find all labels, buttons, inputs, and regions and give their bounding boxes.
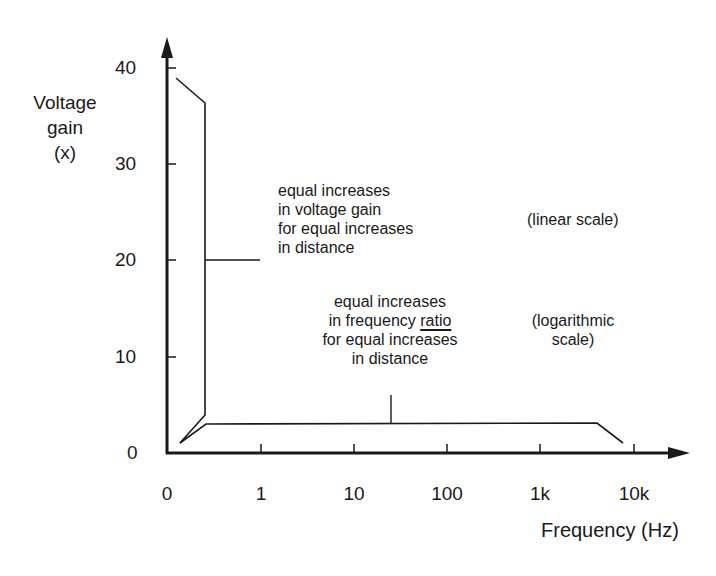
x-tick-label: 1k [515,483,565,505]
y-tick-label: 10 [115,346,136,368]
linear-annotation-line: equal increases [278,181,413,200]
log-scale-note: (logarithmic scale) [518,311,628,349]
x-axis-label: Frequency (Hz) [541,519,679,541]
log-annotation-line: in frequency ratio [300,311,480,330]
linear-scale-note: (linear scale) [527,210,619,229]
y-tick-label: 0 [127,442,138,464]
y-axis-label-line: Voltage [20,90,110,115]
log-scale-note-line: (logarithmic [518,311,628,330]
log-annotation-line: for equal increases [300,330,480,349]
y-axis-label-line: (x) [20,140,110,165]
y-tick-label: 20 [115,249,136,271]
y-axis-label-line: gain [20,115,110,140]
linear-scale-line [176,78,205,443]
linear-annotation-line: in voltage gain [278,200,413,219]
log-annotation-line: in distance [300,349,480,368]
x-tick-label: 10k [604,483,664,505]
y-tick-label: 40 [115,57,136,79]
y-axis-arrow-icon [161,37,173,58]
log-annotation-line: equal increases [300,292,480,311]
linear-annotation-line: for equal increases [278,219,413,238]
x-axis-arrow-icon [668,447,690,459]
log-annotation: equal increases in frequency ratio for e… [300,292,480,368]
linear-annotation-line: in distance [278,238,413,257]
x-tick-label: 1 [241,483,281,505]
x-tick-label: 10 [329,483,379,505]
log-annotation-text: in frequency [329,312,421,329]
x-tick-label: 100 [417,483,477,505]
ratio-emphasis: ratio [420,312,451,329]
log-scale-line [180,423,623,443]
x-tick-label: 0 [147,483,187,505]
y-axis-label: Voltage gain (x) [20,90,110,165]
y-tick-label: 30 [115,153,136,175]
log-scale-note-line: scale) [518,330,628,349]
linear-annotation: equal increases in voltage gain for equa… [278,181,413,257]
